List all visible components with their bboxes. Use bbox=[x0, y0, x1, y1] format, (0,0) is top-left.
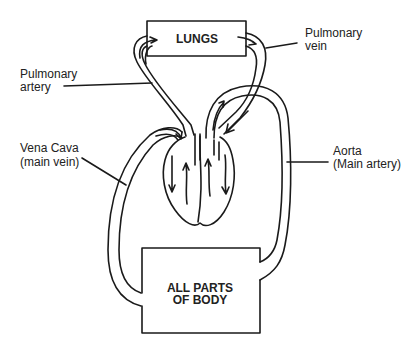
lungs-label: LUNGS bbox=[172, 32, 222, 46]
pulmonary-vein-tube bbox=[219, 33, 266, 134]
pulmonary-artery-label-2: artery bbox=[20, 81, 51, 94]
body-label-line2: OF BODY bbox=[150, 294, 250, 306]
vena-cava-tube bbox=[108, 128, 182, 306]
aorta-label-2: (Main artery) bbox=[333, 158, 401, 171]
pulmonary-vein-label-2: vein bbox=[305, 40, 327, 53]
vena-cava-label-2: (main vein) bbox=[20, 156, 79, 169]
vena-cava-label-1: Vena Cava bbox=[20, 142, 79, 155]
pulmonary-artery-tube bbox=[134, 36, 194, 136]
arrow-from-lungs bbox=[238, 37, 256, 45]
aorta-tube bbox=[206, 86, 291, 280]
